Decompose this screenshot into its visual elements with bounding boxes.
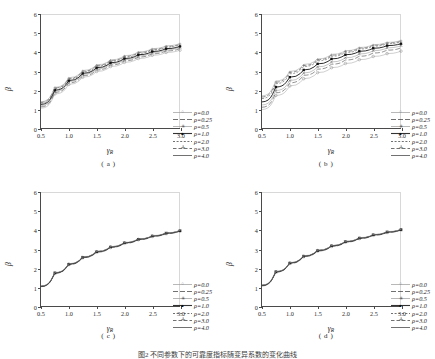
plot-area-b: 01234560.51.01.52.02.53.0 xyxy=(261,14,401,129)
y-tick-label: 3 xyxy=(255,68,258,75)
legend-label: ρ=2.0 xyxy=(194,138,209,145)
legend-item: ■ρ=1.0 xyxy=(173,302,212,309)
y-tick-label: 4 xyxy=(255,49,258,56)
legend-item: ✛ρ=3.0 xyxy=(391,145,430,152)
y-tick xyxy=(259,91,262,92)
y-tick-label: 5 xyxy=(34,30,37,37)
legend-marker-icon: ■ xyxy=(399,304,402,308)
y-tick xyxy=(38,52,41,53)
legend-item: ■ρ=1.0 xyxy=(391,302,430,309)
y-tick xyxy=(259,110,262,111)
x-tick xyxy=(97,306,98,309)
legend-sample-line xyxy=(173,288,192,295)
legend-sample-line: ○ xyxy=(391,109,410,116)
series-marker xyxy=(179,43,182,46)
y-axis-title: β xyxy=(225,262,234,266)
y-tick-label: 5 xyxy=(255,30,258,37)
series-line xyxy=(41,45,180,103)
legend-sample-line: ✳ xyxy=(391,295,410,302)
legend-sample-line xyxy=(391,138,410,145)
x-tick-label: 1.0 xyxy=(65,310,73,317)
y-tick xyxy=(259,269,262,270)
series-marker xyxy=(165,47,167,49)
legend-label: ρ=3.0 xyxy=(194,145,209,152)
legend-label: ρ=0.5 xyxy=(194,123,209,130)
legend-label: ρ=3.0 xyxy=(412,145,427,152)
legend-sample-line: ○ xyxy=(391,281,410,288)
series-marker xyxy=(344,54,346,56)
y-tick xyxy=(259,14,262,15)
series-marker xyxy=(289,76,291,78)
legend-label: ρ=0.0 xyxy=(194,281,209,288)
legend-item: ✳ρ=0.5 xyxy=(391,295,430,302)
legend-marker-icon: ✳ xyxy=(399,296,403,301)
x-tick-label: 1.5 xyxy=(314,132,322,139)
legend-item: ρ=2.0 xyxy=(173,137,212,144)
y-tick-label: 4 xyxy=(255,227,258,234)
x-axis-title: γR xyxy=(261,146,401,155)
figure-2x2-plot-grid: 01234560.51.01.52.02.53.0 β γR ○ρ=0.0ρ=0… xyxy=(0,0,435,359)
legend-sample-line xyxy=(173,116,192,123)
legend-sample-line xyxy=(173,310,192,317)
x-tick xyxy=(69,306,70,309)
legend-item: ○ρ=0.0 xyxy=(391,109,430,116)
legend-item: ρ=4.0 xyxy=(391,324,430,331)
legend-label: ρ=1.0 xyxy=(412,130,427,137)
series-line xyxy=(41,231,180,287)
legend-marker-icon: ✛ xyxy=(181,318,185,323)
series-line xyxy=(262,230,401,286)
x-tick-label: 1.0 xyxy=(65,132,73,139)
legend-sample-line xyxy=(391,310,410,317)
y-tick-label: 3 xyxy=(255,246,258,253)
legend-label: ρ=0.0 xyxy=(412,281,427,288)
legend-marker-icon: ○ xyxy=(181,110,184,115)
legend-item: ρ=2.0 xyxy=(391,137,430,144)
legend-sample-line xyxy=(391,288,410,295)
x-tick-label: 1.5 xyxy=(314,310,322,317)
series-marker xyxy=(109,62,111,64)
panel-d: 01234560.51.01.52.02.53.0 β γR ○ρ=0.0ρ=0… xyxy=(217,178,435,350)
legend-sample-line: ■ xyxy=(391,130,410,137)
y-tick-label: 2 xyxy=(34,87,37,94)
legend-label: ρ=0.0 xyxy=(194,109,209,116)
series-marker xyxy=(400,42,402,44)
panel-label-c: ( c ) xyxy=(0,332,217,340)
legend-sample-line: ○ xyxy=(173,281,192,288)
series-marker xyxy=(316,63,318,65)
series-line xyxy=(41,47,180,105)
y-tick-label: 1 xyxy=(34,284,37,291)
legend-label: ρ=4.0 xyxy=(194,152,209,159)
legend-sample-line: ✛ xyxy=(391,317,410,324)
legend-label: ρ=2.0 xyxy=(194,310,209,317)
legend-item: ○ρ=0.0 xyxy=(173,109,212,116)
legend-item: ✳ρ=0.5 xyxy=(173,295,212,302)
legend-sample-line xyxy=(391,152,410,159)
x-tick-label: 2.5 xyxy=(370,132,378,139)
y-axis-title: β xyxy=(225,87,234,91)
y-tick xyxy=(38,230,41,231)
plot-area-a: 01234560.51.01.52.02.53.0 xyxy=(40,14,180,129)
y-tick xyxy=(38,72,41,73)
legend-item: ρ=4.0 xyxy=(173,152,212,159)
legend-item: ρ=0.25 xyxy=(173,288,212,295)
legend-item: ✛ρ=3.0 xyxy=(173,145,212,152)
legend-marker-icon: ○ xyxy=(399,282,402,287)
series-line xyxy=(41,231,180,287)
x-tick xyxy=(153,128,154,131)
panel-label-d: ( d ) xyxy=(217,332,435,340)
series-line xyxy=(41,50,180,108)
y-tick-label: 1 xyxy=(255,284,258,291)
legend-b: ○ρ=0.0ρ=0.25✳ρ=0.5■ρ=1.0ρ=2.0✛ρ=3.0ρ=4.0 xyxy=(389,108,431,160)
legend-sample-line: ✳ xyxy=(173,295,192,302)
legend-marker-icon: ✳ xyxy=(181,124,185,129)
legend-sample-line xyxy=(391,324,410,331)
y-tick-label: 4 xyxy=(34,49,37,56)
y-tick-label: 5 xyxy=(255,208,258,215)
legend-item: ✛ρ=3.0 xyxy=(173,317,212,324)
legend-label: ρ=1.0 xyxy=(412,302,427,309)
legend-marker-icon: ■ xyxy=(181,304,184,308)
x-tick xyxy=(125,128,126,131)
legend-c: ○ρ=0.0ρ=0.25✳ρ=0.5■ρ=1.0ρ=2.0✛ρ=3.0ρ=4.0 xyxy=(171,280,213,332)
legend-sample-line xyxy=(173,152,192,159)
legend-label: ρ=4.0 xyxy=(412,324,427,331)
